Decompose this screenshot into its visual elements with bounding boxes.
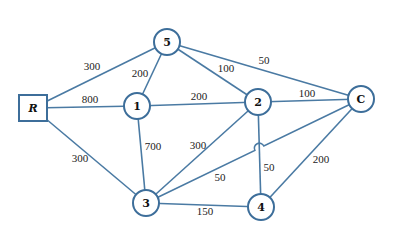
edge-weight-5-C: 50 bbox=[259, 54, 271, 66]
edge-2-C bbox=[258, 99, 361, 102]
edge-weight-R-5: 300 bbox=[84, 60, 101, 72]
node-5: 5 bbox=[154, 29, 180, 55]
edges-layer bbox=[33, 42, 361, 207]
edge-weight-2-3: 300 bbox=[190, 139, 207, 151]
edge-1-2 bbox=[137, 102, 258, 106]
edge-R-1 bbox=[33, 106, 137, 108]
edge-2-3 bbox=[146, 102, 258, 203]
node-label: C bbox=[357, 93, 366, 106]
edge-weight-1-3: 700 bbox=[145, 140, 162, 152]
nodes-layer: R512C34 bbox=[19, 29, 374, 220]
node-2: 2 bbox=[245, 89, 271, 115]
edge-2-4 bbox=[258, 102, 261, 207]
node-4: 4 bbox=[248, 194, 274, 220]
node-label: R bbox=[27, 102, 37, 115]
edge-weight-R-3: 300 bbox=[72, 152, 89, 164]
edge-1-3 bbox=[137, 106, 146, 203]
node-1: 1 bbox=[124, 93, 150, 119]
node-label: 5 bbox=[163, 36, 171, 49]
node-label: 1 bbox=[133, 100, 141, 113]
node-label: 3 bbox=[142, 197, 150, 210]
edge-weight-5-1: 200 bbox=[132, 67, 149, 79]
edge-weight-R-1: 800 bbox=[82, 93, 99, 105]
node-R: R bbox=[19, 95, 47, 121]
edge-4-C bbox=[261, 99, 361, 207]
edge-weight-4-C: 200 bbox=[313, 153, 330, 165]
edge-weight-3-4: 150 bbox=[197, 205, 214, 217]
edge-5-2 bbox=[167, 42, 258, 102]
edge-weight-3-C: 50 bbox=[215, 171, 227, 183]
network-diagram: 300800300200100502007001003005050150200 … bbox=[0, 0, 400, 246]
edge-R-3 bbox=[33, 108, 146, 203]
node-3: 3 bbox=[133, 190, 159, 216]
edge-weight-2-C: 100 bbox=[299, 87, 316, 99]
node-label: 4 bbox=[257, 201, 265, 214]
node-C: C bbox=[348, 86, 374, 112]
edge-weight-1-2: 200 bbox=[191, 90, 208, 102]
node-label: 2 bbox=[254, 96, 262, 109]
edge-weight-5-2: 100 bbox=[218, 62, 235, 74]
edge-weight-2-4: 50 bbox=[264, 161, 276, 173]
